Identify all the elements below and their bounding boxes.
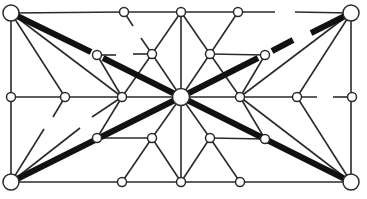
node-small-b2: [177, 178, 186, 187]
node-small-u1: [93, 51, 102, 60]
node-small-m4: [236, 93, 245, 102]
geometric-diagram: [0, 0, 367, 199]
node-corner-tr: [343, 5, 359, 21]
node-corner-tl: [3, 5, 19, 21]
node-small-m6: [348, 93, 357, 102]
node-small-l3: [206, 134, 215, 143]
node-small-l1: [93, 134, 102, 143]
node-small-u3: [206, 50, 215, 59]
thin-edge: [11, 12, 124, 13]
node-small-l2: [148, 134, 157, 143]
node-small-b1: [118, 178, 127, 187]
node-small-m1: [7, 93, 16, 102]
node-small-u2: [148, 50, 157, 59]
node-small-t2: [177, 8, 186, 17]
node-small-t1: [120, 8, 129, 17]
node-corner-bl: [3, 174, 19, 190]
node-small-m5: [293, 93, 302, 102]
node-small-b3: [236, 178, 245, 187]
node-center-c: [173, 89, 190, 106]
node-small-m3: [118, 93, 127, 102]
thin-edge: [210, 54, 265, 55]
node-small-m2: [61, 93, 70, 102]
node-small-t3: [234, 8, 243, 17]
node-small-u4: [261, 51, 270, 60]
node-corner-br: [343, 174, 359, 190]
node-small-l4: [261, 135, 270, 144]
